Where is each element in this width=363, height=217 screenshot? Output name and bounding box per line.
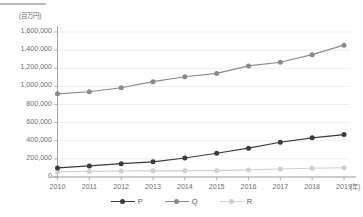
- legend-marker-icon: [220, 198, 244, 206]
- data-point: [214, 71, 219, 76]
- data-point: [342, 43, 347, 48]
- data-point: [214, 168, 219, 173]
- data-point: [119, 169, 124, 174]
- legend-item-p[interactable]: P: [111, 198, 143, 206]
- gridlines: [58, 32, 351, 159]
- data-point: [278, 60, 283, 65]
- series-p: [55, 132, 347, 170]
- legend-dot: [174, 199, 179, 204]
- data-point: [151, 79, 156, 84]
- legend-dot: [120, 199, 125, 204]
- line-chart: (百万円) 0200,000400,000600,000800,0001,000…: [0, 0, 363, 217]
- plot-area: [0, 0, 363, 217]
- legend-marker-icon: [111, 198, 135, 206]
- y-tick-marks: [54, 32, 57, 177]
- legend-item-r[interactable]: R: [220, 198, 252, 206]
- data-point: [246, 167, 251, 172]
- data-point: [119, 161, 124, 166]
- series-line-p: [58, 135, 345, 168]
- data-point: [151, 159, 156, 164]
- chart-legend: PQR: [0, 194, 363, 210]
- data-point: [119, 85, 124, 90]
- data-point: [310, 135, 315, 140]
- data-point: [182, 155, 187, 160]
- series-q: [55, 43, 347, 97]
- data-point: [55, 91, 60, 96]
- legend-dot: [229, 199, 234, 204]
- data-point: [310, 166, 315, 171]
- data-point: [278, 140, 283, 145]
- data-point: [87, 89, 92, 94]
- data-point: [151, 168, 156, 173]
- legend-label: Q: [192, 198, 198, 206]
- data-point: [182, 74, 187, 79]
- data-point: [310, 52, 315, 57]
- series-line-r: [58, 168, 345, 172]
- data-point: [214, 151, 219, 156]
- data-point: [87, 163, 92, 168]
- data-point: [246, 146, 251, 151]
- data-point: [182, 168, 187, 173]
- series-r: [55, 165, 347, 174]
- data-point: [55, 165, 60, 170]
- data-point: [87, 169, 92, 174]
- legend-label: R: [247, 198, 252, 206]
- data-point: [278, 167, 283, 172]
- data-point: [342, 132, 347, 137]
- data-point: [246, 63, 251, 68]
- legend-marker-icon: [165, 198, 189, 206]
- legend-label: P: [138, 198, 143, 206]
- data-point: [342, 165, 347, 170]
- legend-item-q[interactable]: Q: [165, 198, 198, 206]
